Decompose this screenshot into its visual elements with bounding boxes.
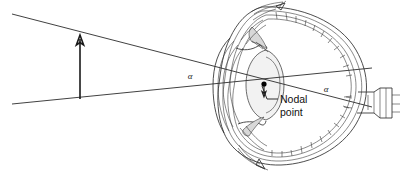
cornea-inner <box>218 41 234 131</box>
anterior-chamber-boundary <box>230 48 243 124</box>
sclera-hatching-top <box>276 12 352 76</box>
cornea-outer <box>213 38 230 133</box>
eye-diagram-svg: α α Nodal point <box>0 0 402 172</box>
object-arrow <box>76 35 83 99</box>
eye-optics-figure: α α Nodal point <box>0 0 402 172</box>
eye-anatomy-group <box>213 1 400 170</box>
nodal-point-label-line2: point <box>280 106 303 118</box>
angle-label-image-side: α <box>324 84 329 94</box>
optic-nerve <box>357 88 400 118</box>
muscle-arrowhead-top <box>276 3 285 10</box>
upper-chief-ray <box>12 14 372 107</box>
chief-rays-group <box>12 14 372 107</box>
ciliary-body-lower <box>243 117 264 136</box>
nodal-point-label-line1: Nodal <box>280 93 307 105</box>
sclera-inner <box>223 11 362 161</box>
angle-label-object-side: α <box>188 71 193 81</box>
nodal-point-dot <box>261 81 266 86</box>
extraocular-muscle-top <box>251 1 286 20</box>
